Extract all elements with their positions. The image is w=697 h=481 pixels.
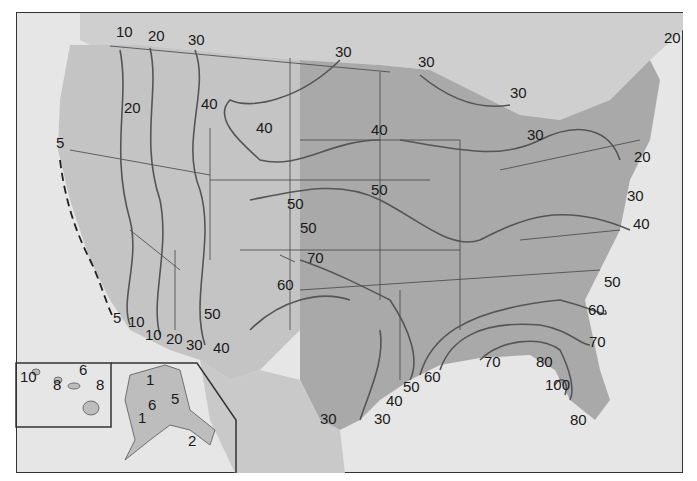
contour-label: 10 [145, 327, 162, 342]
contour-label: 50 [371, 182, 388, 197]
contour-label: 2 [188, 433, 196, 448]
contour-label: 100 [545, 377, 570, 392]
contour-label: 30 [510, 85, 527, 100]
contour-label: 30 [418, 54, 435, 69]
hawaii-islands [32, 369, 99, 415]
contour-label: 30 [320, 411, 337, 426]
contour-label: 50 [287, 196, 304, 211]
contour-label: 70 [307, 250, 324, 265]
contour-label: 40 [256, 120, 273, 135]
contour-label: 50 [604, 274, 621, 289]
contour-label: 6 [79, 362, 87, 377]
contour-label: 10 [116, 24, 133, 39]
contour-label: 1 [146, 372, 154, 387]
contour-label: 20 [124, 100, 141, 115]
contour-label: 8 [96, 377, 104, 392]
eastern-us-land [300, 60, 660, 430]
contour-label: 30 [188, 32, 205, 47]
contour-label: 80 [536, 354, 553, 369]
contour-label: 50 [403, 379, 420, 394]
contour-label: 5 [56, 135, 64, 150]
contour-label: 10 [128, 314, 145, 329]
contour-label: 40 [633, 216, 650, 231]
contour-label: 40 [213, 340, 230, 355]
contour-label: 8 [53, 377, 61, 392]
contour-label: 40 [201, 96, 218, 111]
contour-label: 80 [570, 412, 587, 427]
contour-label: 70 [589, 334, 606, 349]
contour-label: 50 [204, 306, 221, 321]
contour-label: 6 [148, 397, 156, 412]
contour-label: 60 [277, 277, 294, 292]
contour-label: 20 [166, 331, 183, 346]
contour-label: 5 [171, 391, 179, 406]
contour-label: 70 [484, 354, 501, 369]
contour-label: 10 [20, 369, 37, 384]
contour-label: 1 [138, 410, 146, 425]
contour-label: 5 [113, 310, 121, 325]
contour-label: 30 [527, 127, 544, 142]
contour-label: 30 [335, 44, 352, 59]
contour-label: 40 [371, 122, 388, 137]
contour-label: 20 [634, 149, 651, 164]
contour-label: 20 [148, 28, 165, 43]
contour-label: 30 [374, 411, 391, 426]
contour-label: 30 [627, 188, 644, 203]
contour-label: 20 [664, 30, 681, 45]
contour-label: 30 [186, 337, 203, 352]
contour-label: 60 [424, 369, 441, 384]
contour-label: 50 [300, 220, 317, 235]
contour-label: 40 [386, 393, 403, 408]
contour-label: 60 [588, 302, 605, 317]
us-map-graphic [0, 0, 697, 481]
